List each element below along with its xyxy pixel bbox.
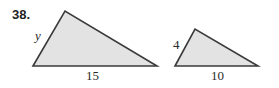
small-triangle-side-label: 4 bbox=[173, 37, 180, 52]
large-triangle-base-label: 15 bbox=[86, 68, 99, 83]
small-triangle bbox=[175, 29, 258, 66]
small-triangle-base-label: 10 bbox=[211, 68, 224, 83]
large-triangle bbox=[33, 11, 157, 66]
similar-triangles-diagram: y 15 4 10 bbox=[0, 0, 279, 88]
large-triangle-side-y-label: y bbox=[33, 28, 41, 43]
